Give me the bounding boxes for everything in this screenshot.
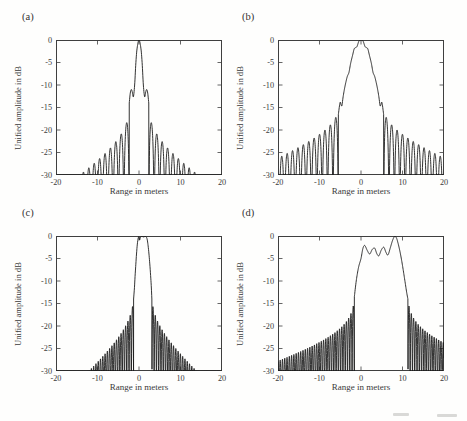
plot-area-a xyxy=(56,40,222,175)
x-tick-label: -20 xyxy=(263,179,293,187)
y-tick-label: -30 xyxy=(244,172,274,180)
x-tick-label: -10 xyxy=(305,375,335,383)
figure-scan: (a) Unified amplitude in dB Range in met… xyxy=(0,0,467,421)
x-tick-label: 0 xyxy=(124,375,154,383)
y-tick-label: -20 xyxy=(22,323,52,331)
y-tick-label: -10 xyxy=(244,278,274,286)
x-tick-label: 10 xyxy=(388,179,418,187)
x-tick-label: -20 xyxy=(41,179,71,187)
x-tick-label: 0 xyxy=(346,375,376,383)
axes-box xyxy=(57,237,222,371)
y-tick-label: -5 xyxy=(244,59,274,67)
subplot-d: (d) Unified amplitude in dB Range in met… xyxy=(233,196,467,389)
plot-area-c xyxy=(56,236,222,371)
x-axis-label: Range in meters xyxy=(332,382,390,392)
subplot-a: (a) Unified amplitude in dB Range in met… xyxy=(0,0,234,193)
x-tick-label: 10 xyxy=(166,375,196,383)
x-axis-label: Range in meters xyxy=(110,382,168,392)
x-tick-label: -10 xyxy=(83,179,113,187)
panel-label-d: (d) xyxy=(242,207,254,218)
x-tick-label: 10 xyxy=(388,375,418,383)
panel-label-c: (c) xyxy=(22,207,34,218)
y-tick-label: 0 xyxy=(22,37,52,45)
caption-fragment xyxy=(393,413,409,416)
x-tick-label: 0 xyxy=(346,179,376,187)
x-axis-label: Range in meters xyxy=(110,186,168,196)
panel-label-b: (b) xyxy=(242,11,254,22)
range-profile-curve xyxy=(278,236,444,371)
axes-box xyxy=(279,41,444,175)
subplot-c: (c) Unified amplitude in dB Range in met… xyxy=(0,196,234,389)
range-profile-curve xyxy=(278,40,444,175)
y-tick-label: -5 xyxy=(22,255,52,263)
subplot-b: (b) Unified amplitude in dB Range in met… xyxy=(233,0,467,193)
range-profile-curve xyxy=(56,40,222,175)
x-tick-label: 10 xyxy=(166,179,196,187)
x-tick-label: -20 xyxy=(41,375,71,383)
x-tick-label: -10 xyxy=(305,179,335,187)
y-tick-label: -25 xyxy=(244,149,274,157)
panel-label-a: (a) xyxy=(22,11,34,22)
y-tick-label: -10 xyxy=(22,82,52,90)
y-tick-label: -15 xyxy=(244,300,274,308)
y-tick-label: -20 xyxy=(244,127,274,135)
y-tick-label: -15 xyxy=(244,104,274,112)
y-tick-label: -25 xyxy=(244,345,274,353)
x-tick-label: 20 xyxy=(429,179,459,187)
y-tick-label: -20 xyxy=(244,323,274,331)
y-tick-label: -15 xyxy=(22,104,52,112)
y-tick-label: -30 xyxy=(22,172,52,180)
y-tick-label: -25 xyxy=(22,149,52,157)
range-profile-curve xyxy=(56,236,222,371)
y-tick-label: -20 xyxy=(22,127,52,135)
y-tick-label: 0 xyxy=(244,233,274,241)
y-tick-label: 0 xyxy=(244,37,274,45)
y-tick-label: 0 xyxy=(22,233,52,241)
y-tick-label: -25 xyxy=(22,345,52,353)
axes-box xyxy=(57,41,222,175)
x-tick-label: -10 xyxy=(83,375,113,383)
y-tick-label: -5 xyxy=(244,255,274,263)
y-tick-label: -10 xyxy=(22,278,52,286)
plot-area-d xyxy=(278,236,444,371)
y-tick-label: -30 xyxy=(22,368,52,376)
y-tick-label: -5 xyxy=(22,59,52,67)
plot-area-b xyxy=(278,40,444,175)
y-tick-label: -10 xyxy=(244,82,274,90)
x-tick-label: -20 xyxy=(263,375,293,383)
y-tick-label: -15 xyxy=(22,300,52,308)
x-tick-label: 20 xyxy=(429,375,459,383)
x-tick-label: 0 xyxy=(124,179,154,187)
y-tick-label: -30 xyxy=(244,368,274,376)
caption-fragment xyxy=(437,414,457,417)
x-axis-label: Range in meters xyxy=(332,186,390,196)
